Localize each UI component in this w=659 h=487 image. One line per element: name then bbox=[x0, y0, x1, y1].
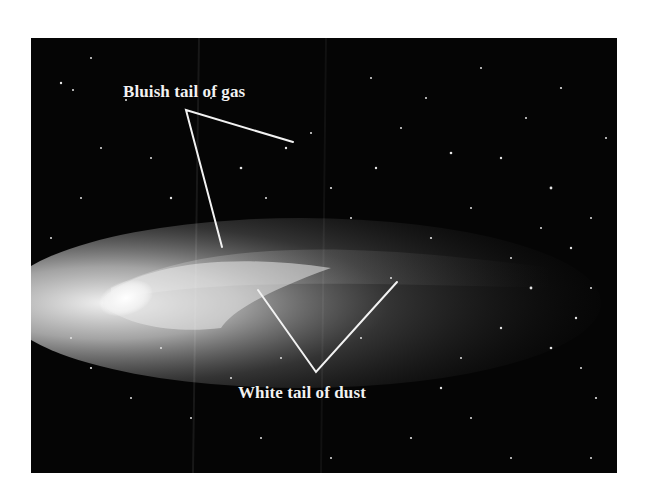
dust-tail-label: White tail of dust bbox=[238, 383, 366, 403]
comet-photo: Bluish tail of gas White tail of dust bbox=[31, 38, 617, 473]
comet-illustration bbox=[31, 38, 617, 473]
gas-tail-label: Bluish tail of gas bbox=[123, 82, 245, 102]
